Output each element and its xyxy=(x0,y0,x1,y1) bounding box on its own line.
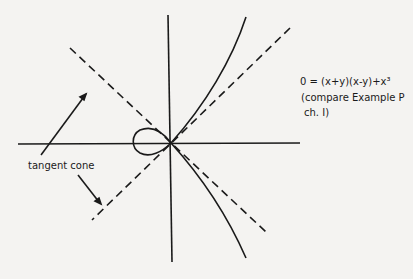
equation-label: 0 = (x+y)(x-y)+x³ xyxy=(300,76,391,88)
x-axis xyxy=(18,143,300,144)
curve-figure xyxy=(0,0,413,279)
callout-arrow-upper xyxy=(41,94,86,155)
note-line-1: (compare Example P xyxy=(301,92,405,104)
note-line-2: ch. I) xyxy=(304,107,329,119)
arrowhead-upper xyxy=(80,94,86,100)
y-axis xyxy=(168,15,172,262)
tangent-line-2 xyxy=(92,28,290,220)
tangent-cone-label: tangent cone xyxy=(28,160,94,172)
nodal-cubic-curve xyxy=(133,17,246,258)
callout-arrow-lower xyxy=(78,175,99,202)
